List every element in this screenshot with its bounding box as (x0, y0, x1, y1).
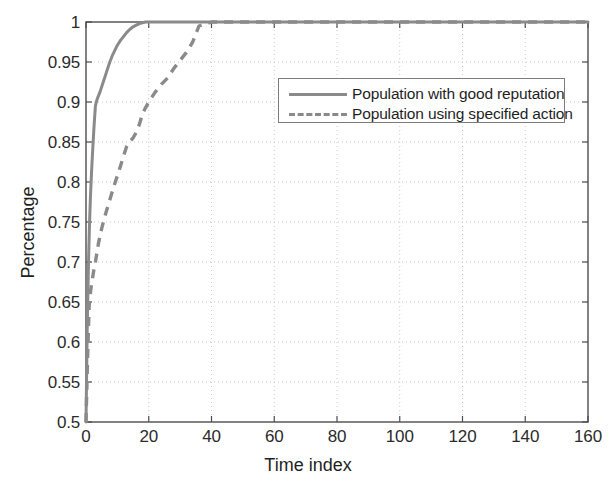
x-tick-label: 140 (511, 428, 539, 445)
x-tick-label: 40 (202, 428, 221, 445)
x-tick-label: 120 (449, 428, 477, 445)
y-tick-label: 1 (71, 14, 80, 31)
x-tick-label: 0 (81, 428, 90, 445)
chart-legend: Population with good reputation Populati… (278, 78, 565, 123)
legend-line-dashed-icon (289, 107, 347, 121)
y-tick-label: 0.6 (57, 334, 80, 351)
y-axis-tick-labels: 0.50.550.60.650.70.750.80.850.90.951 (0, 0, 80, 484)
x-tick-label: 160 (574, 428, 602, 445)
legend-label: Population with good reputation (352, 85, 565, 103)
y-tick-label: 0.55 (48, 374, 80, 391)
y-tick-label: 0.8 (57, 174, 80, 191)
y-tick-label: 0.65 (48, 294, 80, 311)
legend-label: Population using specified action (352, 105, 573, 123)
legend-line-solid-icon (289, 87, 347, 101)
chart-figure: 0.50.550.60.650.70.750.80.850.90.951 020… (0, 0, 616, 484)
legend-item-good-reputation: Population with good reputation (279, 85, 564, 103)
x-tick-label: 60 (265, 428, 284, 445)
x-tick-label: 20 (139, 428, 158, 445)
y-tick-label: 0.9 (57, 94, 80, 111)
x-axis-tick-labels: 020406080100120140160 (0, 428, 616, 452)
y-tick-label: 0.95 (48, 54, 80, 71)
y-tick-label: 0.85 (48, 134, 80, 151)
x-tick-label: 80 (328, 428, 347, 445)
plot-canvas (0, 0, 616, 484)
x-tick-label: 100 (386, 428, 414, 445)
legend-item-specified-action: Population using specified action (279, 105, 564, 123)
x-axis-title: Time index (0, 455, 616, 476)
y-tick-label: 0.75 (48, 214, 80, 231)
y-tick-label: 0.7 (57, 254, 80, 271)
y-axis-title: Percentage (18, 153, 39, 313)
